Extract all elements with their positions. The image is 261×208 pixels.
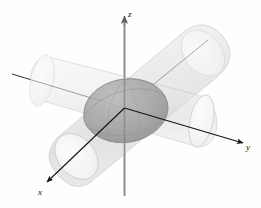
cylinders-3d-svg: z y x	[0, 0, 261, 208]
x-axis-label: x	[37, 187, 42, 197]
figure-canvas: z y x	[0, 0, 261, 208]
y-axis-label: y	[245, 142, 250, 152]
z-axis-label: z	[127, 9, 132, 19]
